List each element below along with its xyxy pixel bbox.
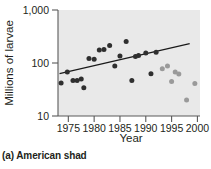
data-point-dark-period [148,71,153,76]
data-point-dark-period [107,43,112,48]
data-point-dark-period [117,54,122,59]
figure-american-shad: 101001,000 197519801985199019952000 Mill… [0,0,211,169]
y-tick-label: 1,000 [23,4,49,16]
y-tick-labels: 101001,000 [23,4,49,122]
x-axis-label: Year [119,132,142,144]
data-point-light-period [176,72,181,77]
data-point-dark-period [86,56,91,61]
data-point-dark-period [101,47,106,52]
data-point-dark-period [143,50,148,55]
data-point-dark-period [81,85,86,90]
figure-caption: (a) American shad [2,150,87,161]
data-point-dark-period [65,69,70,74]
y-axis-ticks [52,10,58,116]
data-point-light-period [165,63,170,68]
data-point-dark-period [59,80,64,85]
y-axis-label: Millions of larvae [3,20,15,106]
data-point-light-period [160,66,165,71]
y-tick-label: 100 [31,57,49,69]
data-point-dark-period [124,39,129,44]
x-tick-label: 1980 [82,122,106,134]
x-tick-label: 2000 [186,122,210,134]
data-point-dark-period [136,53,141,58]
plot-background [58,10,200,116]
data-point-light-period [169,79,174,84]
x-tick-label: 1975 [57,122,81,134]
data-point-light-period [184,98,189,103]
data-point-dark-period [97,48,102,53]
data-point-light-period [192,81,197,86]
x-tick-label: 1995 [160,122,184,134]
data-point-dark-period [79,76,84,81]
data-point-dark-period [154,50,159,55]
data-point-dark-period [129,78,134,83]
y-tick-label: 10 [37,110,49,122]
data-point-dark-period [92,57,97,62]
scatter-plot: 101001,000 197519801985199019952000 Mill… [0,0,211,145]
data-point-dark-period [112,63,117,68]
